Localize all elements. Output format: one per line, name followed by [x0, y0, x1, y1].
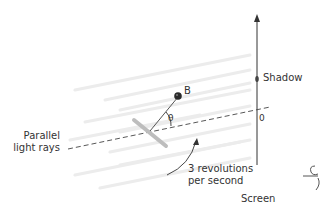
- ball-label: B: [184, 85, 191, 97]
- label-line: light rays: [2, 142, 60, 154]
- screen-axis: [254, 14, 260, 165]
- partial-glyph: [303, 166, 319, 190]
- arrowhead-icon: [193, 138, 199, 145]
- diagram-graphics: [0, 0, 324, 217]
- revolutions-label: 3 revolutions per second: [188, 163, 253, 187]
- label-line: per second: [188, 175, 253, 187]
- parallel-light-rays-label: Parallel light rays: [2, 130, 60, 154]
- origin-label: 0: [259, 112, 265, 124]
- ball: [174, 92, 182, 100]
- angle-label: θ: [168, 112, 174, 124]
- label-line: Parallel: [2, 130, 60, 142]
- diagram-canvas: Parallel light rays B θ Shadow 0 3 revol…: [0, 0, 324, 217]
- shadow-dot: [255, 76, 259, 82]
- label-line: 3 revolutions: [188, 163, 253, 175]
- arrow-up-icon: [254, 14, 260, 22]
- ball-highlight: [176, 94, 178, 96]
- shadow-label: Shadow: [263, 72, 302, 84]
- screen-label: Screen: [241, 193, 275, 205]
